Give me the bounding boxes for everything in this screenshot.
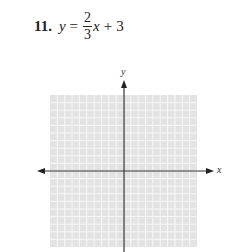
coordinate-grid[interactable]	[0, 0, 226, 252]
y-axis-label: y	[121, 66, 125, 77]
y-axis-up-arrow-icon	[121, 80, 127, 88]
x-axis-left-arrow-icon	[37, 168, 45, 174]
x-axis-right-arrow-icon	[206, 168, 214, 174]
x-axis-label: x	[217, 164, 221, 175]
